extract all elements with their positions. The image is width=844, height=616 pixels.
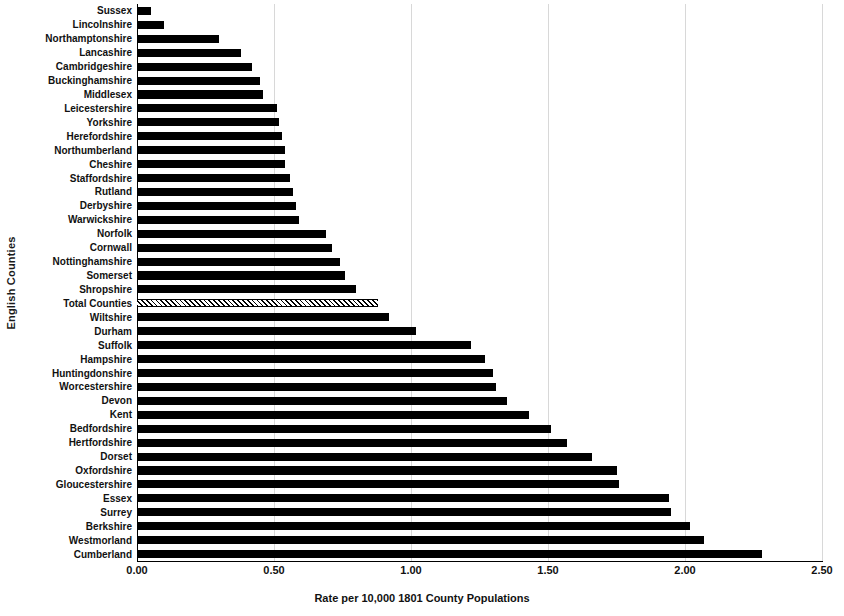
x-tick-label: 2.50 [811, 564, 832, 576]
bar-row [137, 7, 822, 15]
y-tick-label: Cumberland [22, 549, 132, 560]
bar-row [137, 77, 822, 85]
bar-row [137, 258, 822, 266]
bar [137, 453, 592, 461]
y-axis-title: English Counties [0, 0, 22, 565]
bar-row [137, 536, 822, 544]
bar [137, 355, 485, 363]
y-tick-label: Cheshire [22, 159, 132, 170]
plot-area [137, 4, 822, 561]
bar [137, 550, 762, 558]
bar-row [137, 285, 822, 293]
bar [137, 327, 416, 335]
bar-row [137, 90, 822, 98]
y-tick-label: Cambridgeshire [22, 61, 132, 72]
bar [137, 313, 389, 321]
y-tick-label: Worcestershire [22, 381, 132, 392]
bar [137, 439, 567, 447]
bar [137, 341, 471, 349]
bar [137, 411, 529, 419]
bar [137, 90, 263, 98]
bar-row [137, 21, 822, 29]
bar [137, 118, 279, 126]
bar [137, 425, 551, 433]
bar-row [137, 230, 822, 238]
y-axis-title-text: English Counties [5, 236, 17, 329]
bar [137, 21, 164, 29]
y-tick-label: Lancashire [22, 47, 132, 58]
bar-row [137, 327, 822, 335]
bar [137, 49, 241, 57]
y-tick-label: Yorkshire [22, 117, 132, 128]
bar [137, 188, 293, 196]
y-tick-label: Oxfordshire [22, 465, 132, 476]
y-axis-tick-labels: SussexLincolnshireNorthamptonshireLancas… [22, 4, 132, 561]
bar-row [137, 132, 822, 140]
bar-row [137, 494, 822, 502]
bar-row [137, 202, 822, 210]
bar [137, 466, 617, 474]
bar [137, 397, 507, 405]
bar [137, 369, 493, 377]
y-tick-label: Suffolk [22, 340, 132, 351]
bar [137, 230, 326, 238]
bar [137, 174, 290, 182]
bar [137, 536, 704, 544]
bar [137, 480, 619, 488]
bar [137, 508, 671, 516]
bar-row [137, 453, 822, 461]
x-tick-label: 1.00 [400, 564, 421, 576]
y-tick-label: Derbyshire [22, 200, 132, 211]
bar-row [137, 369, 822, 377]
y-tick-label: Nottinghamshire [22, 256, 132, 267]
bar-row [137, 244, 822, 252]
x-axis-line [137, 561, 823, 562]
bar-row [137, 313, 822, 321]
y-tick-label: Dorset [22, 451, 132, 462]
bar-row [137, 188, 822, 196]
bar-row [137, 425, 822, 433]
bar [137, 7, 151, 15]
bar-row [137, 355, 822, 363]
y-tick-label: Hertfordshire [22, 437, 132, 448]
x-axis-tick-labels: 0.000.501.001.502.002.50 [137, 564, 822, 582]
bar [137, 216, 299, 224]
y-tick-label: Kent [22, 409, 132, 420]
bar [137, 202, 296, 210]
bar-row [137, 49, 822, 57]
bar-row [137, 271, 822, 279]
y-tick-label: Northamptonshire [22, 33, 132, 44]
x-axis-title: Rate per 10,000 1801 County Populations [0, 592, 844, 604]
bar-row [137, 216, 822, 224]
y-tick-label: Northumberland [22, 145, 132, 156]
bar-row [137, 118, 822, 126]
gridline-2.50 [822, 4, 823, 561]
bar-row [137, 480, 822, 488]
bar [137, 494, 669, 502]
bar-row [137, 146, 822, 154]
bar-row [137, 35, 822, 43]
y-tick-label: Devon [22, 395, 132, 406]
y-tick-label: Buckinghamshire [22, 75, 132, 86]
x-tick-label: 0.50 [263, 564, 284, 576]
bar-row [137, 397, 822, 405]
y-tick-label: Sussex [22, 5, 132, 16]
bar [137, 77, 260, 85]
y-tick-label: Herefordshire [22, 131, 132, 142]
y-tick-label: Rutland [22, 186, 132, 197]
bar-row [137, 63, 822, 71]
y-tick-label: Staffordshire [22, 173, 132, 184]
bar-total-counties [137, 299, 378, 307]
bar [137, 63, 252, 71]
y-tick-label: Berkshire [22, 521, 132, 532]
bar-series [137, 4, 822, 561]
y-tick-label: Norfolk [22, 228, 132, 239]
x-tick-label: 2.00 [674, 564, 695, 576]
y-tick-label: Cornwall [22, 242, 132, 253]
x-tick-label: 1.50 [537, 564, 558, 576]
bar [137, 146, 285, 154]
bar [137, 522, 690, 530]
bar [137, 244, 332, 252]
y-tick-label: Leicestershire [22, 103, 132, 114]
bar [137, 271, 345, 279]
